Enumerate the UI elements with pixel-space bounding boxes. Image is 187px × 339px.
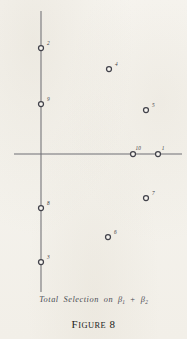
data-point-marker [39, 102, 44, 107]
data-point-marker [39, 260, 44, 265]
caption-operator: + [130, 295, 136, 304]
beta-1-subscript: 1 [122, 299, 125, 305]
data-point-label: 9 [47, 96, 50, 102]
data-point-label: 10 [136, 145, 142, 151]
figure-number-label: FIGURE 8 [0, 318, 187, 330]
data-point-label: 3 [47, 254, 50, 260]
data-point-marker [156, 152, 161, 157]
data-point: 9 [39, 96, 51, 106]
figure-word-smallcaps: IGURE [78, 321, 106, 330]
data-point-label: 7 [152, 190, 155, 196]
data-point-label: 5 [152, 102, 155, 108]
handwritten-caption: Total Selection on β1 + β2 [0, 295, 187, 305]
data-point: 4 [107, 61, 119, 71]
data-point-marker [107, 67, 112, 72]
data-point: 2 [39, 40, 51, 50]
data-point-marker [106, 235, 111, 240]
data-point-label: 1 [162, 145, 165, 151]
data-point-marker [144, 108, 149, 113]
data-point-label: 6 [114, 229, 117, 235]
caption-prefix-text: Total Selection on [39, 295, 113, 304]
data-point-marker [131, 152, 136, 157]
data-point: 1 [156, 145, 165, 157]
data-point-label: 8 [47, 200, 50, 206]
data-point-label: 4 [115, 61, 118, 67]
beta-2-subscript: 2 [145, 299, 148, 305]
data-point: 5 [144, 102, 156, 112]
data-point-marker [39, 46, 44, 51]
scatter-plot-figure: 24951017863 [0, 0, 187, 339]
caption-symbol-beta-2: β2 [141, 295, 148, 304]
data-points-group: 24951017863 [39, 40, 165, 264]
data-point: 7 [144, 190, 156, 200]
data-point: 10 [131, 145, 142, 157]
data-point-marker [144, 196, 149, 201]
data-point: 6 [106, 229, 118, 239]
data-point: 3 [39, 254, 51, 264]
figure-number-value: 8 [109, 318, 115, 330]
data-point-marker [39, 206, 44, 211]
data-point: 8 [39, 200, 51, 210]
data-point-label: 2 [47, 40, 50, 46]
caption-symbol-beta-1: β1 [118, 295, 125, 304]
plot-canvas: 24951017863 [0, 0, 187, 339]
